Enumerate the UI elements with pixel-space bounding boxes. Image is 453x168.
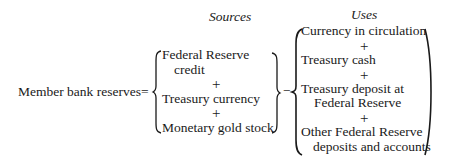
plus-sign: + <box>360 39 368 53</box>
plus-sign: + <box>360 111 368 125</box>
plus-sign: + <box>360 68 368 82</box>
use-item-other-fr-deposits-line1: Other Federal Reserve <box>301 125 422 139</box>
use-item-treasury-cash: Treasury cash <box>301 53 376 67</box>
sources-right-brace <box>272 52 282 134</box>
use-item-treasury-deposit-line1: Treasury deposit at <box>301 82 404 96</box>
source-item-federal-reserve-credit-line1: Federal Reserve <box>162 48 249 62</box>
sources-header: Sources <box>209 9 251 25</box>
source-item-federal-reserve-credit-line2: credit <box>174 63 205 77</box>
uses-right-paren <box>424 28 434 156</box>
source-item-monetary-gold-stock: Monetary gold stock <box>162 121 274 135</box>
use-item-currency-in-circulation: Currency in circulation <box>301 24 426 38</box>
equals-sign: = <box>141 85 149 99</box>
use-item-other-fr-deposits-line2: deposits and accounts <box>313 140 431 154</box>
minus-sign: − <box>283 84 291 98</box>
plus-sign: + <box>212 77 220 91</box>
plus-sign: + <box>212 106 220 120</box>
source-item-treasury-currency: Treasury currency <box>162 92 260 106</box>
uses-header: Uses <box>351 7 377 23</box>
lhs-label: Member bank reserves <box>18 85 141 99</box>
use-item-treasury-deposit-line2: Federal Reserve <box>314 96 401 110</box>
